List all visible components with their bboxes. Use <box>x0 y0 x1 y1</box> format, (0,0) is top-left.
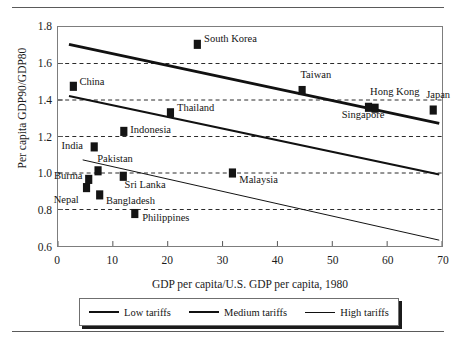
point-label-singapore: Singapore <box>342 109 385 120</box>
chart-legend: Low tariffs Medium tariffs High tariffs <box>79 298 399 326</box>
point-label-sri-lanka: Sri Lanka <box>125 179 166 190</box>
legend-label-low: Low tariffs <box>124 307 171 318</box>
scatter-chart-figure: 0.60.81.01.21.41.61.8010203040506070 Chi… <box>0 10 456 328</box>
legend-line-swatch-high <box>305 307 335 317</box>
legend-label-medium: Medium tariffs <box>224 307 287 318</box>
legend-line-swatch-low <box>89 307 119 317</box>
x-tick-label: 20 <box>152 254 182 266</box>
point-label-indonesia: Indonesia <box>130 124 171 135</box>
legend-label-high: High tariffs <box>340 307 389 318</box>
x-tick-label: 40 <box>263 254 293 266</box>
bottom-rule <box>12 331 444 332</box>
figure-page: 0.60.81.01.21.41.61.8010203040506070 Chi… <box>0 0 456 339</box>
point-label-burma: Burma <box>54 170 83 181</box>
legend-item-medium-tariffs: Medium tariffs <box>189 307 287 318</box>
x-axis-title: GDP per capita/U.S. GDP per capita, 1980 <box>57 278 443 290</box>
x-tick-label: 70 <box>428 254 456 266</box>
legend-line-swatch-medium <box>189 307 219 317</box>
point-label-pakistan: Pakistan <box>97 153 133 164</box>
point-label-india: India <box>61 140 83 151</box>
data-markers <box>70 40 437 218</box>
point-label-japan: Japan <box>426 89 450 100</box>
point-label-thailand: Thailand <box>177 102 214 113</box>
point-label-nepal: Nepal <box>54 194 79 205</box>
y-tick-label: 0.8 <box>16 204 52 216</box>
y-tick-label: 0.6 <box>16 241 52 253</box>
point-label-malaysia: Malaysia <box>239 174 278 185</box>
trendlines <box>69 44 439 240</box>
y-axis-title: Per capita GDP90/GDP80 <box>16 18 28 198</box>
point-label-taiwan: Taiwan <box>300 69 331 80</box>
point-label-china: China <box>79 76 104 87</box>
x-tick-label: 10 <box>97 254 127 266</box>
point-label-hong-kong: Hong Kong <box>370 86 419 97</box>
plot-area <box>57 26 443 247</box>
x-tick-label: 30 <box>207 254 237 266</box>
point-label-philippines: Philippines <box>142 212 189 223</box>
plot-canvas <box>58 27 442 246</box>
point-label-bangladesh: Bangladesh <box>106 195 155 206</box>
legend-item-high-tariffs: High tariffs <box>305 307 389 318</box>
top-rule <box>12 7 444 8</box>
x-tick-label: 60 <box>373 254 403 266</box>
x-tick-label: 0 <box>42 254 72 266</box>
point-label-south-korea: South Korea <box>204 33 257 44</box>
legend-item-low-tariffs: Low tariffs <box>89 307 171 318</box>
x-tick-label: 50 <box>318 254 348 266</box>
